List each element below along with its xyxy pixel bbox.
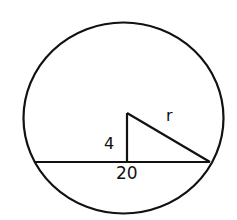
height-label: 4 bbox=[104, 136, 114, 152]
circle bbox=[24, 23, 224, 214]
geometry-figure bbox=[0, 0, 237, 220]
chord-length-label: 20 bbox=[116, 165, 138, 182]
circle-chord-diagram: 4 r 20 bbox=[0, 0, 237, 220]
radius-label: r bbox=[166, 108, 173, 124]
